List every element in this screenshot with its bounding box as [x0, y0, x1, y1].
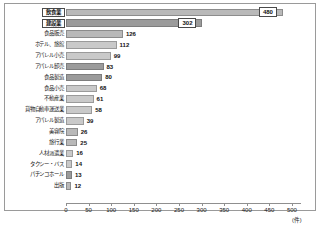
category-label: アパレル製造: [35, 118, 64, 123]
category-label: タクシー・バス: [30, 162, 64, 167]
x-tick: [292, 203, 293, 206]
bar: [66, 139, 77, 147]
x-tick: [224, 203, 225, 206]
bar-value-label: 61: [97, 96, 104, 102]
bar: [66, 160, 72, 168]
x-tick: [111, 203, 112, 206]
bar: [66, 182, 71, 190]
bar-value-label: 13: [75, 172, 82, 178]
bar-row: 美容院26: [66, 126, 301, 137]
bar: [66, 85, 97, 93]
bar-row: 不動産業61: [66, 94, 301, 105]
x-tick: [89, 203, 90, 206]
bar-value-label: 39: [87, 118, 94, 124]
bar-row: ホテル、旅館112: [66, 40, 301, 51]
x-tick-label: 450: [264, 207, 274, 213]
bar: [66, 63, 104, 71]
bar-row: 建設業302: [66, 18, 301, 29]
x-tick-label: 400: [242, 207, 252, 213]
bar-row: 食品製造80: [66, 72, 301, 83]
bar-value-label: 26: [81, 129, 88, 135]
x-tick-label: 100: [106, 207, 116, 213]
category-label: アパレル卸売: [35, 64, 64, 69]
x-tick: [179, 203, 180, 206]
category-label: 建設業: [42, 19, 65, 28]
x-tick-label: 500: [287, 207, 297, 213]
bar: [66, 117, 84, 125]
bar-row: アパレル製造39: [66, 115, 301, 126]
category-label: 美容院: [49, 129, 64, 134]
bar-value-label: 83: [107, 64, 114, 70]
x-tick-label: 150: [129, 207, 139, 213]
category-label: 出版: [54, 183, 64, 188]
bar-value-label: 25: [80, 140, 87, 146]
bar: [66, 150, 73, 158]
bar: [66, 74, 102, 82]
category-label: ホテル、旅館: [35, 42, 64, 47]
category-label: 旅行業: [49, 140, 64, 145]
bar-value-label: 80: [105, 74, 112, 80]
category-label: 食品販売: [44, 31, 64, 36]
bar-row: 貨物自動車運送業58: [66, 105, 301, 116]
category-label: 食品製造: [44, 75, 64, 80]
bar-row: 食品小売68: [66, 83, 301, 94]
x-tick-label: 200: [151, 207, 161, 213]
x-tick-label: 0: [64, 207, 67, 213]
x-tick: [269, 203, 270, 206]
bar-rows: 飲食業480建設業302食品販売126ホテル、旅館112アパレル小売99アパレル…: [66, 7, 301, 203]
x-axis-ticks: 050100150200250300350400450500: [66, 203, 301, 223]
x-tick: [66, 203, 67, 206]
bar-row: アパレル卸売83: [66, 61, 301, 72]
bar-row: 出版12: [66, 181, 301, 192]
category-label: 人材派遣業: [39, 151, 64, 156]
bar: [66, 52, 111, 60]
bar-value-label: 112: [120, 42, 130, 48]
bar-row: タクシー・バス14: [66, 159, 301, 170]
category-label: 飲食業: [42, 8, 65, 17]
bar-value-label: 14: [75, 161, 82, 167]
bar: [66, 9, 283, 17]
x-tick: [247, 203, 248, 206]
bar-row: 食品販売126: [66, 29, 301, 40]
x-tick: [202, 203, 203, 206]
bar-row: パチンコホール13: [66, 170, 301, 181]
x-tick-label: 300: [197, 207, 207, 213]
category-label: 貨物自動車運送業: [25, 107, 64, 112]
x-tick-label: 250: [174, 207, 184, 213]
bar-value-label: 480: [259, 7, 277, 17]
x-tick: [156, 203, 157, 206]
category-label: アパレル小売: [35, 53, 64, 58]
x-axis-unit-label: (件): [292, 216, 302, 224]
bar: [66, 106, 92, 114]
bar-value-label: 68: [100, 85, 107, 91]
bar-row: 人材派遣業16: [66, 148, 301, 159]
category-label: 不動産業: [44, 96, 64, 101]
bar: [66, 171, 72, 179]
bar: [66, 30, 123, 38]
bar-value-label: 16: [76, 150, 83, 156]
x-tick: [134, 203, 135, 206]
bar-row: アパレル小売99: [66, 50, 301, 61]
bar-value-label: 12: [74, 183, 81, 189]
bar-row: 飲食業480: [66, 7, 301, 18]
bar-value-label: 126: [126, 31, 136, 37]
plot-area: 飲食業480建設業302食品販売126ホテル、旅館112アパレル小売99アパレル…: [66, 7, 301, 203]
bar: [66, 95, 94, 103]
bar-row: 旅行業25: [66, 137, 301, 148]
category-label: 食品小売: [44, 86, 64, 91]
bar-value-label: 99: [114, 53, 121, 59]
bar-value-label: 302: [178, 18, 196, 28]
x-tick-label: 350: [219, 207, 229, 213]
bar: [66, 128, 78, 136]
bar: [66, 41, 117, 49]
bar-chart: 飲食業480建設業302食品販売126ホテル、旅館112アパレル小売99アパレル…: [0, 0, 321, 232]
category-label: パチンコホール: [30, 172, 64, 177]
x-tick-label: 50: [85, 207, 92, 213]
bar-value-label: 58: [95, 107, 102, 113]
